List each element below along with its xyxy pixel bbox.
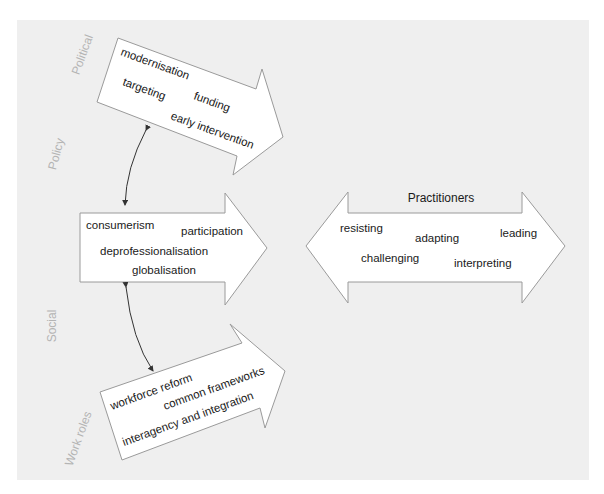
policy-practice-diagram: Political Policy Social Work roles moder…	[0, 0, 604, 494]
social-arrow: consumerism participation deprofessional…	[80, 193, 267, 305]
social-term: participation	[181, 225, 243, 237]
social-term: deprofessionalisation	[100, 245, 208, 257]
practitioner-term: resisting	[340, 222, 383, 234]
practitioner-term: leading	[500, 227, 537, 239]
side-label-work-roles: Work roles	[62, 409, 95, 467]
side-label-social: Social	[45, 310, 59, 343]
practitioners-arrow-shape	[306, 192, 565, 303]
work-roles-arrow: workforce reform common frameworks inter…	[100, 324, 285, 460]
connector-social-work-roles	[126, 287, 153, 371]
political-arrow: modernisation targeting funding early in…	[97, 38, 283, 175]
connector-political-social	[125, 130, 146, 205]
side-label-political: Political	[69, 33, 96, 77]
practitioner-term: challenging	[361, 252, 419, 264]
practitioner-term: interpreting	[454, 257, 512, 269]
practitioners-double-arrow: Practitioners resisting adapting leading…	[306, 191, 565, 303]
social-term: consumerism	[86, 219, 154, 231]
practitioner-term: adapting	[415, 232, 459, 244]
social-term: globalisation	[132, 264, 196, 276]
side-label-policy: Policy	[45, 137, 67, 172]
practitioners-title: Practitioners	[408, 191, 475, 205]
